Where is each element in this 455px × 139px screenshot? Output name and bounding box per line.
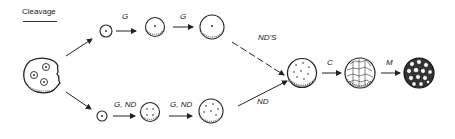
top-cell-2-icon [146, 18, 165, 37]
cleavage-diagram [0, 0, 455, 139]
label-top-1: G [122, 12, 128, 21]
label-bottom-2: G, ND [170, 100, 192, 109]
label-final-2: M [386, 58, 393, 67]
cellularized-cell-icon [345, 58, 375, 88]
top-cell-1-icon [100, 25, 112, 37]
egg-cell-icon [24, 58, 60, 92]
bottom-cell-2-icon [141, 103, 160, 122]
merged-cell-icon [288, 59, 317, 88]
label-bottom-1: G, ND [114, 100, 136, 109]
top-cell-3-icon [200, 15, 224, 39]
bottom-cell-3-icon [199, 99, 223, 123]
label-final-1: C [327, 58, 333, 67]
label-top-2: G [180, 12, 186, 21]
bottom-cell-1-icon [97, 111, 107, 121]
mature-cell-icon [404, 58, 434, 88]
label-bottom-merge: ND [257, 97, 269, 106]
label-top-merge: ND'S [258, 33, 276, 42]
